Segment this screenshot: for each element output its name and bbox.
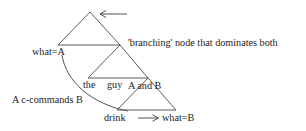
branching-node-note: 'branching' node that dominates both A a…: [128, 7, 278, 123]
label-what-b: what=B: [162, 112, 194, 124]
triangle-top: [58, 12, 120, 45]
branching-node-note-line1: 'branching' node that dominates both: [128, 36, 278, 50]
branching-node-arrow: [100, 11, 127, 18]
triangle-top-left-edge: [58, 12, 90, 45]
label-drink: drink: [104, 112, 126, 124]
branching-node-note-line2: A and B: [128, 79, 278, 93]
c-command-note: A c-commands B: [12, 93, 83, 107]
triangle-middle-left-edge: [88, 45, 120, 78]
label-what-a: what=A: [32, 46, 65, 58]
label-the: the: [83, 79, 95, 91]
label-guy: guy: [107, 79, 122, 91]
syntax-tree-figure: 'branching' node that dominates both A a…: [0, 0, 306, 131]
